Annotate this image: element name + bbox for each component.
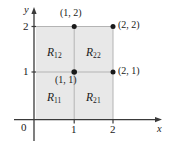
- region-R11-base: R: [47, 91, 54, 103]
- region-R21-sub: 21: [93, 96, 101, 105]
- origin-label: 0: [21, 122, 27, 133]
- region-R12-base: R: [47, 46, 54, 58]
- region-R11-sub: 11: [54, 96, 61, 105]
- point-label-2-1: (2, 1): [118, 66, 140, 76]
- point-marker-2-2: [111, 24, 116, 29]
- y-tick-label-2: 2: [23, 21, 29, 32]
- region-R12-sub: 12: [54, 51, 62, 60]
- region-label-R11: R11: [47, 92, 61, 104]
- x-tick-label-1: 1: [71, 124, 77, 135]
- x-axis-label: x: [157, 124, 162, 135]
- region-R22-sub: 22: [93, 51, 101, 60]
- x-axis-arrow: [155, 117, 162, 122]
- region-label-R21: R21: [86, 92, 101, 104]
- point-marker-2-1: [111, 70, 116, 75]
- x-tick-label-2: 2: [110, 124, 116, 135]
- coordinate-plane-figure: y x 0 1 2 1 2 (1, 2) (2, 2) (1, 1) (2, 1…: [0, 0, 174, 146]
- y-tick-label-1: 1: [23, 66, 29, 77]
- region-R22-base: R: [86, 46, 93, 58]
- region-label-R22: R22: [86, 47, 101, 59]
- y-axis-label: y: [24, 5, 29, 16]
- region-label-R12: R12: [47, 47, 62, 59]
- point-marker-1-2: [72, 24, 77, 29]
- point-label-1-2: (1, 2): [60, 8, 82, 18]
- point-label-1-1: (1, 1): [55, 75, 77, 85]
- region-R21-base: R: [86, 91, 93, 103]
- y-axis-arrow: [31, 7, 36, 14]
- point-label-2-2: (2, 2): [118, 20, 140, 30]
